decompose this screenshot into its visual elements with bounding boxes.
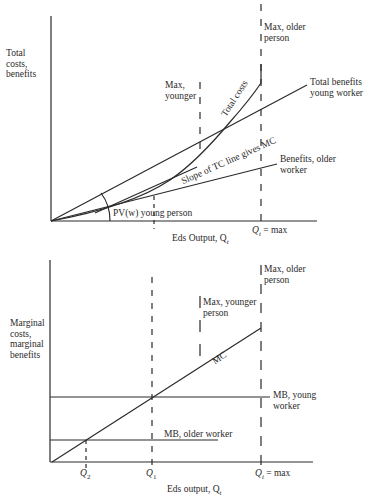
top-y-label-line1: Total [6, 48, 36, 59]
top-max-older-label: Max, older person [264, 22, 306, 43]
bottom-y-label-line4: benefits [10, 350, 45, 361]
bottom-qt-suffix: = max [264, 468, 290, 478]
top-max-younger-line2: younger [165, 91, 196, 102]
q1-q: Q [146, 468, 153, 478]
top-x-label-text: Eds Output, Q [172, 233, 227, 243]
tb-young-line2: young worker [310, 88, 363, 99]
bottom-y-label-line3: marginal [10, 339, 45, 350]
bottom-y-label-line1: Marginal [10, 318, 45, 329]
tb-young-line1: Total benefits [310, 77, 363, 88]
bottom-max-younger-line1: Max, younger [203, 297, 256, 308]
q2-q: Q [80, 468, 87, 478]
diagram-canvas [0, 0, 373, 501]
bottom-q1-tick-label: Q1 [146, 468, 156, 482]
bottom-max-older-line2: person [264, 275, 306, 286]
benefits-older-label: Benefits, older worker [280, 154, 336, 175]
bottom-x-label-text: Eds output, Q [167, 484, 220, 494]
total-benefits-young-line [51, 85, 307, 221]
top-y-axis-label: Total costs, benefits [6, 48, 36, 80]
bottom-qt-tick-label: Qt = max [255, 468, 290, 482]
top-qt-suffix: = max [261, 225, 287, 235]
top-max-older-line1: Max, older [264, 22, 306, 33]
bottom-q2-tick-label: Q2 [80, 468, 90, 482]
mb-young-line2: worker [273, 401, 316, 412]
pv-young-label: PV(w) young person [113, 208, 192, 219]
top-qt-tick-label: Qt = max [252, 225, 287, 239]
bottom-max-younger-line2: person [203, 308, 256, 319]
total-costs-curve [51, 64, 261, 221]
bottom-x-label-sub: t [220, 489, 222, 497]
mb-older-label: MB, older worker [164, 429, 232, 440]
mb-young-line1: MB, young [273, 390, 316, 401]
q2-sub: 2 [87, 473, 91, 481]
top-x-axis-label: Eds Output, Qt [172, 233, 229, 247]
bottom-y-label-line2: costs, [10, 329, 45, 340]
mc-line [52, 328, 261, 462]
bottom-max-older-label: Max, older person [264, 264, 306, 285]
top-max-older-line2: person [264, 33, 306, 44]
top-y-label-line3: benefits [6, 69, 36, 80]
top-x-label-sub: t [227, 238, 229, 246]
bottom-y-axis-label: Marginal costs, marginal benefits [10, 318, 45, 360]
bottom-max-older-line1: Max, older [264, 264, 306, 275]
b-older-line2: worker [280, 165, 336, 176]
top-max-younger-label: Max, younger [165, 80, 196, 101]
q1-sub: 1 [153, 473, 157, 481]
b-older-line1: Benefits, older [280, 154, 336, 165]
mb-young-label: MB, young worker [273, 390, 316, 411]
bottom-max-younger-label: Max, younger person [203, 297, 256, 318]
total-benefits-young-label: Total benefits young worker [310, 77, 363, 98]
bottom-x-axis-label: Eds output, Qt [167, 484, 221, 498]
top-y-label-line2: costs, [6, 59, 36, 70]
top-qt-q: Q [252, 225, 259, 235]
bottom-qt-q: Q [255, 468, 262, 478]
top-max-younger-line1: Max, [165, 80, 196, 91]
